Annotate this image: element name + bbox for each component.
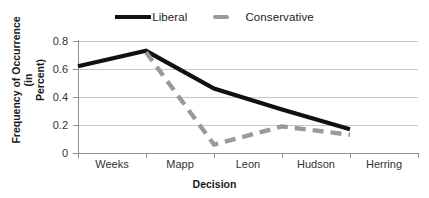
gridline-0.4	[78, 97, 418, 98]
plot-area	[78, 41, 418, 153]
chart-legend: Liberal Conservative	[0, 6, 429, 28]
y-tick-mark-0.4	[73, 97, 78, 98]
y-tick-label-0.4: 0.4	[28, 91, 68, 103]
y-axis-line	[78, 40, 79, 154]
x-tick-label-herring: Herring	[344, 158, 424, 170]
y-tick-label-0.6: 0.6	[28, 63, 68, 75]
gridline-0.8	[78, 41, 418, 42]
line-chart: Liberal Conservative Frequency of Occurr…	[0, 0, 429, 198]
y-tick-mark-0.6	[73, 69, 78, 70]
legend-item-conservative: Conservative	[213, 11, 313, 23]
legend-label-liberal: Liberal	[152, 11, 187, 23]
x-axis-line	[78, 153, 418, 154]
y-tick-mark-0.8	[73, 41, 78, 42]
y-tick-mark-0.2	[73, 125, 78, 126]
gridline-0.2	[78, 125, 418, 126]
dashed-line-swatch	[213, 15, 229, 19]
y-tick-label-0: 0	[28, 147, 68, 159]
legend-item-liberal: Liberal	[115, 11, 187, 23]
gridline-0.6	[78, 69, 418, 70]
y-tick-label-0.8: 0.8	[28, 35, 68, 47]
legend-label-conservative: Conservative	[245, 11, 313, 23]
x-axis-title: Decision	[0, 178, 429, 190]
y-tick-label-0.2: 0.2	[28, 119, 68, 131]
solid-line-swatch	[115, 15, 151, 19]
